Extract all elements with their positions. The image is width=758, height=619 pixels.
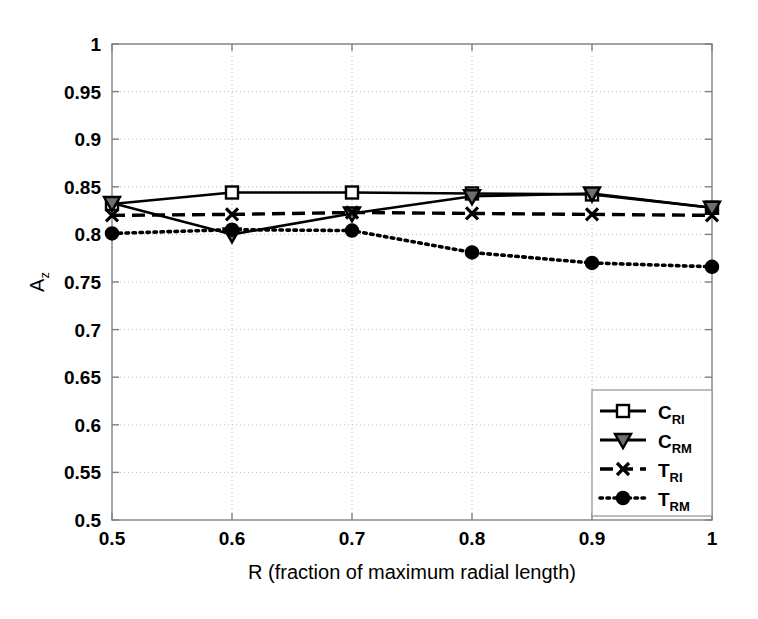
- series-C_RI: [106, 187, 718, 214]
- y-tick-label: 0.65: [64, 367, 101, 388]
- series-line: [112, 230, 712, 267]
- series-T_RM: [106, 223, 719, 273]
- y-tick-label: 0.85: [64, 177, 101, 198]
- chart-figure: 0.50.550.60.650.70.750.80.850.90.9510.50…: [0, 0, 758, 619]
- y-tick-label: 0.9: [75, 129, 101, 150]
- x-tick-label: 0.7: [339, 528, 365, 549]
- marker-circle: [586, 256, 599, 269]
- series-line: [112, 213, 712, 216]
- x-axis-title: R (fraction of maximum radial length): [248, 561, 576, 583]
- y-tick-label: 0.6: [75, 415, 101, 436]
- marker-circle: [466, 246, 479, 259]
- y-axis-title-text: Az: [26, 272, 52, 292]
- marker-circle: [346, 224, 359, 237]
- line-chart: 0.50.550.60.650.70.750.80.850.90.9510.50…: [0, 0, 758, 619]
- y-tick-label: 1: [90, 34, 101, 55]
- y-tick-label: 0.8: [75, 224, 101, 245]
- x-tick-label: 1: [707, 528, 718, 549]
- marker-circle: [226, 223, 239, 236]
- series-T_RI: [106, 207, 718, 222]
- x-tick-label: 0.8: [459, 528, 485, 549]
- y-axis-title: Az: [26, 272, 52, 292]
- y-tick-label: 0.75: [64, 272, 101, 293]
- y-tick-label: 0.95: [64, 82, 101, 103]
- marker-square: [617, 405, 629, 417]
- y-tick-label: 0.5: [75, 510, 102, 531]
- y-tick-label: 0.7: [75, 320, 101, 341]
- marker-circle: [706, 260, 719, 273]
- x-tick-label: 0.6: [219, 528, 245, 549]
- y-tick-label: 0.55: [64, 462, 101, 483]
- marker-circle: [617, 492, 630, 505]
- marker-square: [226, 187, 238, 199]
- x-tick-label: 0.9: [579, 528, 605, 549]
- marker-square: [346, 187, 358, 199]
- marker-circle: [106, 227, 119, 240]
- x-tick-label: 0.5: [99, 528, 126, 549]
- legend: CRICRMTRITRM: [592, 390, 712, 516]
